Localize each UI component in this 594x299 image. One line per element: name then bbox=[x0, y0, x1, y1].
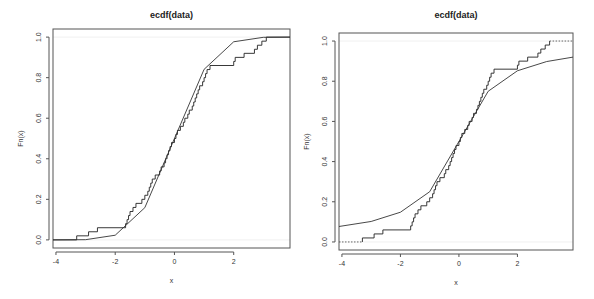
y-tick-label: 0.4 bbox=[321, 157, 328, 167]
x-tick-label: 2 bbox=[232, 258, 236, 265]
ecdf-plot-right: ecdf(data) -4-2020.00.20.40.60.81.0 x Fn… bbox=[297, 0, 594, 299]
x-tick-label: -2 bbox=[112, 258, 118, 265]
ecdf-plot-right-svg: ecdf(data) -4-2020.00.20.40.60.81.0 x Fn… bbox=[297, 0, 594, 299]
y-tick-label: 0.2 bbox=[35, 194, 42, 204]
x-tick-label: 2 bbox=[515, 260, 519, 267]
x-tick-label: 0 bbox=[173, 258, 177, 265]
x-axis-label: x bbox=[454, 279, 458, 286]
x-tick-label: -4 bbox=[339, 260, 345, 267]
y-tick-label: 0.6 bbox=[35, 113, 42, 123]
y-tick-label: 0.6 bbox=[321, 116, 328, 126]
ecdf-step-line bbox=[362, 41, 549, 242]
y-tick-label: 1.0 bbox=[321, 36, 328, 46]
y-axis: 0.00.20.40.60.81.0 bbox=[35, 32, 49, 245]
y-axis-label: Fn(x) bbox=[303, 133, 311, 149]
y-tick-label: 0.0 bbox=[35, 235, 42, 245]
theoretical-cdf-line bbox=[53, 37, 290, 240]
plot-title: ecdf(data) bbox=[434, 10, 477, 20]
plot-frame bbox=[53, 29, 290, 248]
ecdf-plot-left: ecdf(data) -4-2020.00.20.40.60.81.0 x Fn… bbox=[0, 0, 297, 299]
theoretical-cdf-line bbox=[339, 57, 573, 226]
y-axis-label: Fn(x) bbox=[17, 130, 25, 146]
x-tick-label: -4 bbox=[53, 258, 59, 265]
y-tick-label: 0.8 bbox=[35, 73, 42, 83]
ecdf-step-line bbox=[53, 37, 290, 240]
plot-area: -4-2020.00.20.40.60.81.0 bbox=[35, 29, 290, 265]
x-tick-label: -2 bbox=[397, 260, 403, 267]
ecdf-plot-left-svg: ecdf(data) -4-2020.00.20.40.60.81.0 x Fn… bbox=[0, 0, 297, 299]
x-tick-label: 0 bbox=[457, 260, 461, 267]
plot-frame bbox=[339, 33, 573, 250]
y-tick-label: 1.0 bbox=[35, 32, 42, 42]
y-tick-label: 0.0 bbox=[321, 237, 328, 247]
y-axis: 0.00.20.40.60.81.0 bbox=[321, 36, 335, 247]
x-axis: -4-202 bbox=[53, 252, 236, 265]
y-tick-label: 0.2 bbox=[321, 197, 328, 207]
plot-title: ecdf(data) bbox=[150, 10, 193, 20]
plot-area: -4-2020.00.20.40.60.81.0 bbox=[321, 33, 573, 267]
x-axis-label: x bbox=[170, 277, 174, 284]
y-tick-label: 0.8 bbox=[321, 76, 328, 86]
y-tick-label: 0.4 bbox=[35, 154, 42, 164]
x-axis: -4-202 bbox=[339, 254, 520, 267]
